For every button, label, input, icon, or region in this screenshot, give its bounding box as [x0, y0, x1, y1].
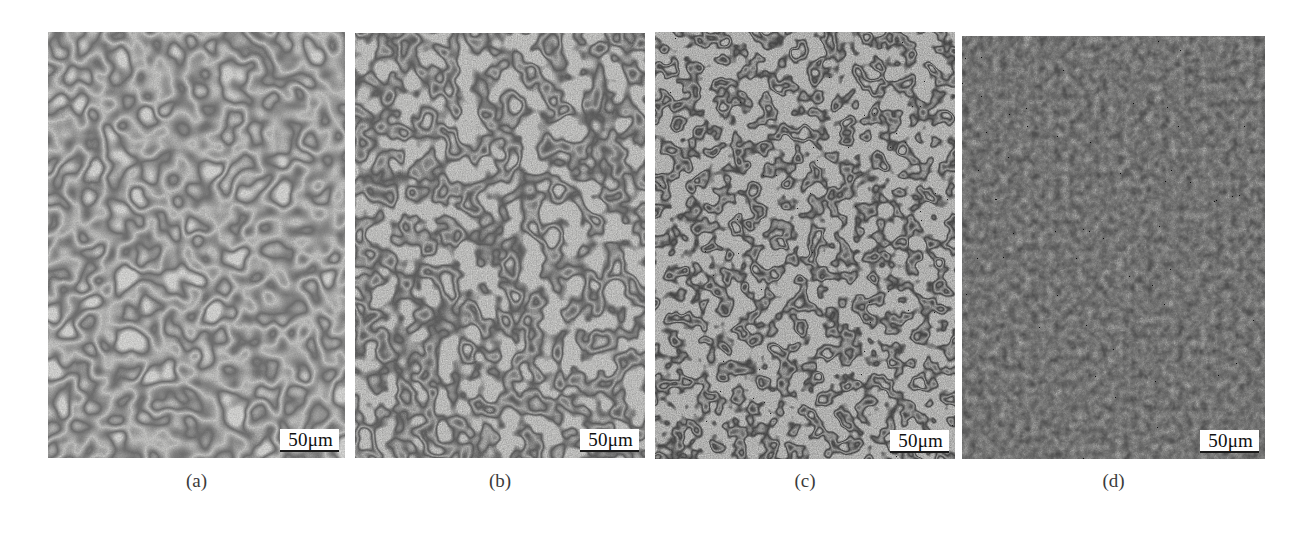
panel-caption-c: (c) — [655, 470, 955, 492]
scale-bar-label: 50μm — [288, 430, 333, 450]
micrograph-image-c — [655, 32, 955, 459]
panel-caption-a: (a) — [48, 470, 345, 492]
micrograph-image-a — [48, 32, 345, 458]
scale-bar-c: 50μm — [890, 430, 949, 453]
scale-bar-label: 50μm — [1208, 431, 1253, 451]
micrograph-panel-b: 50μm — [355, 33, 645, 458]
micrograph-panel-a: 50μm — [48, 32, 345, 458]
micrograph-figure: 50μm 50μm 50μm 50μm (a) (b) (c) (d) — [0, 0, 1301, 533]
micrograph-image-b — [355, 33, 645, 458]
scale-bar-a: 50μm — [280, 429, 339, 452]
scale-bar-d: 50μm — [1200, 430, 1259, 453]
micrograph-panel-c: 50μm — [655, 32, 955, 459]
panel-caption-b: (b) — [355, 470, 645, 492]
micrograph-image-d — [962, 36, 1265, 459]
scale-bar-b: 50μm — [580, 429, 639, 452]
micrograph-panel-d: 50μm — [962, 36, 1265, 459]
scale-bar-label: 50μm — [898, 431, 943, 451]
scale-bar-label: 50μm — [588, 430, 633, 450]
panel-caption-d: (d) — [962, 470, 1265, 492]
